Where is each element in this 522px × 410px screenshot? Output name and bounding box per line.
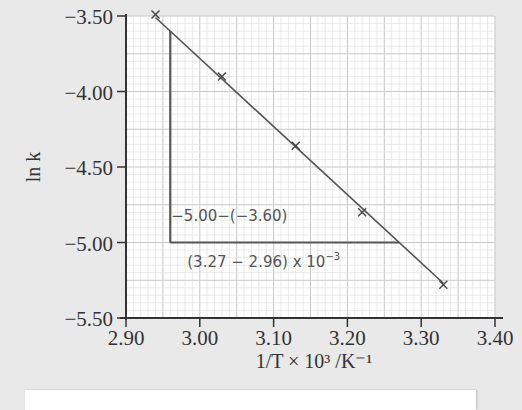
caption-box bbox=[25, 390, 476, 410]
x-tick-label: 3.30 bbox=[403, 326, 440, 350]
y-tick-label: −4.50 bbox=[64, 156, 113, 180]
run-annotation-text: (3.27 − 2.96) x 10 bbox=[187, 253, 325, 271]
x-tick-label: 3.00 bbox=[181, 326, 218, 350]
y-tick-label: −5.00 bbox=[64, 232, 113, 256]
x-tick-label: 3.20 bbox=[329, 326, 366, 350]
x-ticks: 2.903.003.103.203.303.40 bbox=[108, 318, 514, 350]
x-tick-label: 3.10 bbox=[255, 326, 292, 350]
run-annotation: (3.27 − 2.96) x 10−3 bbox=[187, 251, 340, 271]
run-annotation-exponent: −3 bbox=[325, 251, 340, 262]
y-ticks: −3.50−4.00−4.50−5.00−5.50 bbox=[64, 5, 126, 331]
y-tick-label: −4.00 bbox=[64, 81, 113, 105]
x-tick-label: 3.40 bbox=[477, 326, 514, 350]
x-axis-title: 1/T × 10³ /K⁻¹ bbox=[256, 350, 373, 372]
y-axis-title: ln k bbox=[22, 152, 44, 183]
y-tick-label: −5.50 bbox=[64, 307, 113, 331]
y-tick-label: −3.50 bbox=[64, 5, 113, 29]
grid bbox=[126, 16, 495, 318]
x-tick-label: 2.90 bbox=[108, 326, 145, 350]
rise-annotation: −5.00−(−3.60) bbox=[171, 207, 287, 225]
